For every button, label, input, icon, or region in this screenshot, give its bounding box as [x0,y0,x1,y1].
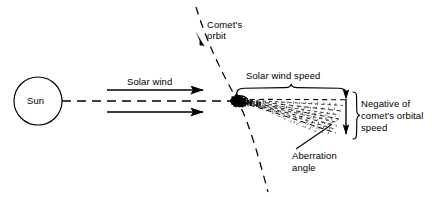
aberration-angle-leader-line [296,125,331,149]
sun-label: Sun [27,95,44,107]
negative-speed-label-line1: Negative of [361,98,410,110]
comet-orbit-label-line1: Comet's [207,19,242,31]
aberration-angle-label-line2: angle [292,162,316,174]
solar-wind-speed-label: Solar wind speed [246,70,320,82]
negative-speed-label-line2: comet's orbital [361,110,423,122]
negative-speed-brace [353,92,360,139]
comet-aberration-diagram: Sun Solar wind Comet's orbit Solar wind … [0,0,432,198]
solar-wind-label: Solar wind [127,76,172,88]
solar-wind-speed-brace [237,84,347,96]
negative-speed-label-line3: speed [361,122,387,134]
comet-orbit-label-line2: orbit [207,30,226,42]
comet-orbit-arrowhead [196,32,205,47]
aberration-angle-label-line1: Aberration [292,150,337,162]
